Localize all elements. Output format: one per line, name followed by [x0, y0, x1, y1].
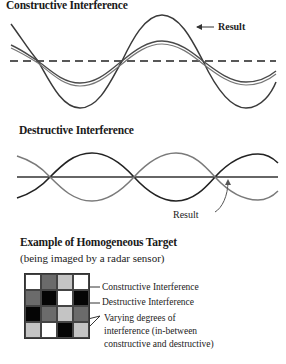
- label-destructive: Destructive Interference: [102, 297, 194, 308]
- label-constructive: Constructive Interference: [102, 282, 199, 293]
- constructive-component-wave-2: [11, 44, 276, 86]
- grid-cell: [25, 274, 41, 290]
- grid-cell: [57, 290, 73, 306]
- destructive-result-pointer: [215, 181, 228, 212]
- label-varying-3: constructive and destructive): [104, 339, 214, 350]
- grid-cell: [57, 322, 73, 338]
- grid-cell: [57, 306, 73, 322]
- grid-cell: [25, 290, 41, 306]
- destructive-title: Destructive Interference: [19, 124, 134, 136]
- label-varying-1: Varying degrees of: [104, 313, 176, 324]
- grid-cell: [41, 306, 57, 322]
- grid-cell: [41, 274, 57, 290]
- label-varying-2: interference (in-between: [104, 326, 197, 337]
- grid-cell: [25, 322, 41, 338]
- constructive-component-wave-1: [11, 41, 276, 83]
- destructive-result-label: Result: [173, 209, 199, 220]
- homogeneous-title: Example of Homogeneous Target: [20, 236, 177, 248]
- target-pixel-grid: [24, 273, 90, 339]
- grid-cell: [57, 274, 73, 290]
- homogeneous-subtitle: (being imaged by a radar sensor): [20, 252, 164, 264]
- grid-cell: [73, 322, 89, 338]
- grid-cell: [73, 290, 89, 306]
- arrowhead-icon: [196, 24, 202, 30]
- constructive-result-label: Result: [218, 21, 245, 32]
- grid-cell: [25, 306, 41, 322]
- grid-cell: [73, 306, 89, 322]
- grid-cell: [41, 322, 57, 338]
- grid-cell: [41, 290, 57, 306]
- arrowhead-icon: [225, 179, 231, 185]
- grid-cell: [73, 274, 89, 290]
